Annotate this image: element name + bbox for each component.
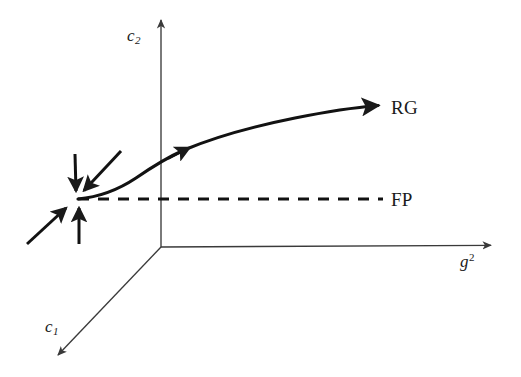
g-squared-axis-label: g2 [460,252,475,270]
c1-axis-label-subscript: 1 [53,325,59,337]
c1-axis-label: c1 [45,318,59,337]
g-squared-axis-line [161,245,491,247]
flow-arrow-from-upper-right [84,151,121,191]
c1-axis-label-base: c [45,317,53,336]
rg-flow-diagram: c2 c1 g2 RG FP [0,0,521,377]
rg-midpoint-arrow-mark [168,150,184,158]
c2-axis-label: c2 [127,27,141,46]
c2-axis-label-subscript: 2 [135,34,141,46]
diagram-canvas [0,0,521,377]
rg-trajectory-curve [78,106,378,200]
rg-trajectory-group [78,106,378,200]
flow-arrow-from-lower-left [27,208,66,244]
fp-label: FP [391,190,413,209]
g-squared-axis-label-base: g [460,252,469,271]
g-squared-axis-label-superscript: 2 [469,251,475,263]
flow-arrow-from-above [75,154,76,191]
axes-group [58,20,491,355]
c2-axis-label-base: c [127,26,135,45]
rg-label: RG [391,98,418,117]
c1-axis-line [58,247,161,355]
